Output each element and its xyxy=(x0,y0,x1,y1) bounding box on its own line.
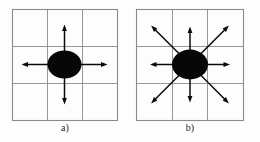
panel-b-arrow-left-head xyxy=(150,62,157,67)
panel-b-caption: b) xyxy=(165,122,215,133)
panel-a-blob xyxy=(48,51,82,79)
panel-a-caption: a) xyxy=(40,122,90,133)
panel-a xyxy=(13,10,118,121)
panel-b-arrow-up-head xyxy=(188,27,193,34)
panel-a-arrow-down-head xyxy=(62,98,67,105)
panel-b-blob xyxy=(172,50,208,80)
panel-b-arrow-right-head xyxy=(224,62,231,67)
panel-a-arrow-up-head xyxy=(62,25,67,32)
figure-canvas xyxy=(0,0,260,142)
panel-a-arrow-left-head xyxy=(22,62,29,67)
panel-b-arrow-down-head xyxy=(188,96,193,103)
panel-a-arrow-right-head xyxy=(101,62,108,67)
panel-b xyxy=(137,10,244,121)
figure-root: a) b) xyxy=(0,0,260,142)
